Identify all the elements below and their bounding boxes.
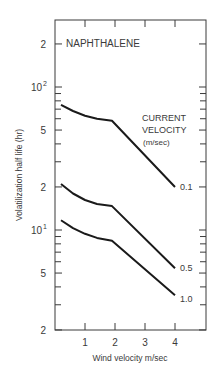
y-tick-labels: 21025210152 — [31, 39, 47, 336]
x-tick-label: 4 — [172, 337, 178, 348]
chart-title: NAPHTHALENE — [66, 38, 140, 49]
y-tick-label: 5 — [40, 125, 46, 136]
series-label-0.5: 0.5 — [180, 263, 193, 273]
legend-title-line2: VELOCITY — [142, 125, 187, 135]
chart: NAPHTHALENE CURRENT VELOCITY (m/sec) 0.1… — [0, 0, 217, 378]
y-axis-label: Volatilization half life (hr) — [14, 129, 24, 221]
y-tick-label: 5 — [40, 268, 46, 279]
legend-title-line3: (m/sec) — [143, 138, 170, 147]
y-tick-label: 2 — [40, 325, 46, 336]
x-tick-labels: 1234 — [82, 337, 178, 348]
y-tick-label-exponent: 1 — [43, 223, 47, 230]
y-tick-label: 2 — [40, 182, 46, 193]
y-tick-label-exponent: 2 — [43, 80, 47, 87]
x-tick-label: 3 — [142, 337, 148, 348]
y-tick-label: 2 — [40, 39, 46, 50]
y-tick-label: 10 — [31, 82, 43, 93]
plot-frame — [55, 20, 206, 330]
y-tick-label: 10 — [31, 225, 43, 236]
series-label-1.0: 1.0 — [180, 294, 193, 304]
axis-ticks — [55, 20, 206, 330]
x-axis-label: Wind velocity m/sec — [92, 353, 168, 363]
x-tick-label: 2 — [112, 337, 118, 348]
series-label-0.1: 0.1 — [180, 182, 193, 192]
x-tick-label: 1 — [82, 337, 88, 348]
series-curve-0.5 — [61, 184, 175, 268]
series-curve-1.0 — [61, 220, 175, 295]
legend-title-line1: CURRENT — [142, 113, 187, 123]
